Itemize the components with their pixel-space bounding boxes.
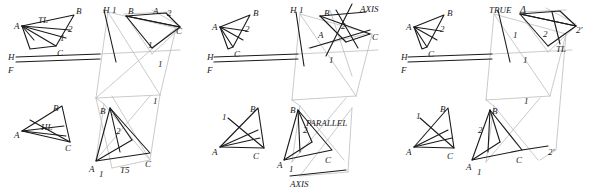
label-true-length-construction-11: C: [57, 49, 63, 58]
label-true-angle-construction-5: 1: [513, 31, 518, 40]
label-true-shape-construction-2: A: [14, 131, 20, 140]
label-final-true-shape-3: B: [492, 107, 498, 116]
label-true-length-construction-15: 1: [158, 60, 163, 69]
label-edge-view-axis-construction-8: A: [318, 31, 324, 40]
label-true-length-construction-4: B: [128, 7, 134, 16]
label-final-true-shape-1: 1: [416, 112, 421, 121]
label-true-angle-construction-8: TL: [556, 45, 566, 54]
label-parallel-axis-construction-9: C: [325, 156, 331, 165]
label-final-true-shape-9: 2': [548, 148, 554, 157]
label-edge-view-axis-construction-1: H: [290, 6, 297, 15]
label-true-shape-construction-6: A: [89, 165, 95, 174]
drawing-canvas: [0, 0, 596, 189]
label-final-true-shape-0: B: [440, 105, 446, 114]
label-final-true-shape-5: C: [447, 152, 453, 161]
label-true-angle-construction-10: C: [428, 50, 434, 59]
label-true-shape-construction-1: HL: [41, 123, 53, 132]
label-final-true-shape-6: A: [466, 163, 472, 172]
label-parallel-axis-construction-8: 1: [289, 165, 294, 174]
label-true-angle-construction-6: 2: [543, 30, 548, 39]
label-final-true-shape-8: C: [516, 156, 522, 165]
label-parallel-axis-construction-0: B: [290, 106, 296, 115]
label-edge-view-axis-construction-13: 1: [329, 56, 334, 65]
label-edge-view-axis-construction-12: F: [207, 66, 213, 75]
label-true-angle-construction-12: 1: [523, 56, 528, 65]
label-final-true-shape-4: A: [406, 148, 412, 157]
label-true-length-construction-1: B: [76, 7, 82, 16]
label-true-length-construction-14: F: [8, 66, 14, 75]
label-parallel-axis-construction-2: B: [250, 105, 256, 114]
label-true-shape-construction-0: B: [53, 104, 59, 113]
label-parallel-axis-construction-1: 1: [222, 113, 227, 122]
label-true-angle-construction-0: TRUE: [489, 6, 512, 15]
label-true-length-construction-13: H: [8, 53, 15, 62]
label-true-shape-construction-3: C: [65, 144, 71, 153]
label-edge-view-axis-construction-7: 2: [341, 22, 346, 31]
label-edge-view-axis-construction-0: B: [253, 9, 259, 18]
label-true-angle-construction-7: 2': [576, 26, 582, 35]
label-edge-view-axis-construction-9: C: [372, 33, 378, 42]
label-edge-view-axis-construction-6: 2: [245, 25, 250, 34]
label-true-angle-construction-4: 2: [440, 25, 445, 34]
label-edge-view-axis-construction-4: B: [324, 9, 330, 18]
label-true-shape-construction-9: C: [145, 160, 151, 169]
label-true-length-construction-7: A: [14, 22, 20, 31]
label-true-shape-construction-5: 2: [116, 127, 121, 136]
label-parallel-axis-construction-10: AXIS: [290, 180, 309, 189]
label-parallel-axis-construction-4: PARALLEL: [306, 119, 347, 128]
label-true-length-construction-10: C: [176, 27, 182, 36]
label-final-true-shape-7: 1: [477, 168, 482, 177]
label-true-angle-construction-2: B: [447, 9, 453, 18]
label-edge-view-axis-construction-11: C: [234, 50, 240, 59]
label-true-length-construction-5: A: [153, 7, 159, 16]
label-true-shape-construction-4: B: [100, 107, 106, 116]
label-parallel-axis-construction-7: A: [277, 161, 283, 170]
label-true-angle-construction-1: Δ: [520, 5, 526, 15]
label-edge-view-axis-construction-5: A: [212, 23, 218, 32]
label-final-true-shape-2: 2: [478, 126, 483, 135]
label-true-length-construction-2: H: [103, 6, 110, 15]
label-true-length-construction-6: 2: [167, 9, 172, 18]
label-final-true-shape-10: 1: [524, 97, 529, 106]
descriptive-geometry-figure: TLBH1BA2A21CC1HF1BHLACB2A1T5C1BH1AXISBA2…: [0, 0, 596, 189]
label-edge-view-axis-construction-3: AXIS: [360, 5, 379, 14]
label-true-shape-construction-10: 1: [153, 97, 158, 106]
label-true-angle-construction-11: F: [401, 66, 407, 75]
faint-construction-lines: [96, 8, 576, 176]
label-parallel-axis-construction-5: A: [212, 148, 218, 157]
label-true-length-construction-0: TL: [38, 16, 48, 25]
label-true-angle-construction-3: A: [406, 23, 412, 32]
label-true-shape-construction-8: T5: [120, 166, 130, 175]
label-edge-view-axis-construction-10: H: [207, 53, 214, 62]
label-true-length-construction-3: 1: [112, 6, 117, 15]
label-true-angle-construction-9: H: [401, 53, 408, 62]
label-true-length-construction-9: 1: [60, 34, 65, 43]
label-edge-view-axis-construction-2: 1: [299, 6, 304, 15]
label-true-length-construction-12: 1: [148, 41, 153, 50]
main-construction-lines: [16, 4, 576, 176]
label-true-length-construction-8: 2: [68, 25, 73, 34]
label-parallel-axis-construction-6: C: [253, 152, 259, 161]
label-true-shape-construction-7: 1: [99, 170, 104, 179]
